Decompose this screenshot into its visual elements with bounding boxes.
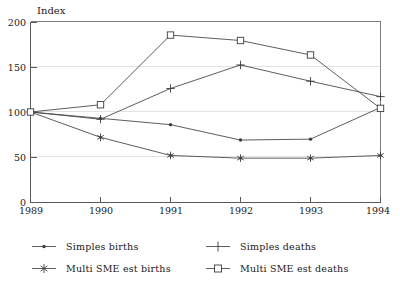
x-axis-ticks: [31, 197, 381, 203]
x-tick-label-1991: 1991: [159, 205, 183, 216]
plus-marker-icon: [236, 61, 244, 69]
dot-marker-icon: [169, 123, 172, 126]
square-marker-icon: [377, 105, 383, 111]
chart-legend: Simples births Simples deaths Multi SME …: [32, 241, 348, 274]
legend-item-simples-births[interactable]: Simples births: [32, 241, 138, 252]
y-tick-label-150: 150: [8, 62, 26, 73]
legend-label-simples-births: Simples births: [66, 241, 138, 252]
legend-label-multi-sme-est-deaths: Multi SME est deaths: [240, 263, 348, 274]
y-tick-label-50: 50: [14, 152, 26, 163]
line-chart: 0 50 100 150 200 Index 1989 1990 1991 19…: [0, 0, 400, 286]
legend-item-multi-sme-est-births[interactable]: Multi SME est births: [32, 263, 171, 274]
legend-item-simples-deaths[interactable]: Simples deaths: [206, 241, 316, 252]
plus-marker-icon: [306, 77, 314, 85]
x-tick-label-1993: 1993: [299, 205, 323, 216]
square-marker-icon: [215, 265, 222, 272]
y-axis-title: Index: [37, 5, 66, 16]
x-tick-label-1994: 1994: [366, 205, 390, 216]
x-axis-labels: 1989 1990 1991 1992 1993 1994: [19, 205, 390, 216]
legend-label-simples-deaths: Simples deaths: [240, 241, 316, 252]
series-multi-sme-est-deaths: [27, 32, 383, 115]
square-marker-icon: [167, 32, 173, 38]
legend-item-multi-sme-est-deaths[interactable]: Multi SME est deaths: [206, 263, 348, 274]
square-marker-icon: [27, 109, 33, 115]
x-tick-label-1989: 1989: [19, 205, 43, 216]
plus-marker-icon: [166, 84, 174, 92]
data-series-layer: [26, 32, 384, 162]
legend-label-multi-sme-est-births: Multi SME est births: [66, 263, 171, 274]
asterisk-marker-icon: [97, 134, 104, 142]
y-tick-label-100: 100: [8, 107, 26, 118]
x-tick-label-1990: 1990: [89, 205, 113, 216]
dot-marker-icon: [309, 137, 312, 140]
square-marker-icon: [237, 37, 243, 43]
x-tick-label-1992: 1992: [229, 205, 253, 216]
y-tick-label-200: 200: [8, 17, 26, 28]
gridlines: [30, 67, 380, 157]
chart-container: 0 50 100 150 200 Index 1989 1990 1991 19…: [0, 0, 400, 286]
square-marker-icon: [307, 52, 313, 58]
y-axis-labels: 0 50 100 150 200: [8, 17, 26, 208]
square-marker-icon: [97, 102, 103, 108]
plus-marker-icon: [96, 115, 104, 123]
plus-marker-icon: [376, 92, 384, 100]
dot-marker-icon: [42, 245, 45, 248]
dot-marker-icon: [239, 138, 242, 141]
